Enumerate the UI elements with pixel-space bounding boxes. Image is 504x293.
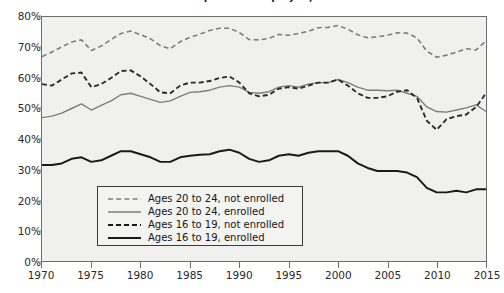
legend-label: Ages 16 to 19, enrolled (148, 231, 265, 244)
legend-item: Ages 16 to 19, enrolled (98, 231, 302, 244)
x-tick-mark (486, 262, 487, 268)
x-tick-label: 1985 (176, 269, 203, 281)
x-tick-label: 1995 (275, 269, 302, 281)
series-line (42, 70, 486, 129)
legend-line-swatch (108, 233, 141, 243)
x-tick-mark (388, 262, 389, 268)
x-tick-label: 1975 (77, 269, 104, 281)
legend-item: Ages 20 to 24, enrolled (98, 205, 302, 218)
x-tick-label: 2015 (474, 269, 501, 281)
x-tick-mark (91, 262, 92, 268)
x-tick-label: 1990 (226, 269, 253, 281)
series-line (42, 26, 486, 58)
y-axis: 0%10%20%30%40%50%60%70%80% (0, 16, 41, 262)
x-tick-mark (140, 262, 141, 268)
x-tick-mark (190, 262, 191, 268)
employment-rate-line-chart: Percent of Population Employed, 1970-201… (0, 0, 504, 293)
legend-label: Ages 20 to 24, enrolled (148, 205, 265, 218)
x-tick-mark (239, 262, 240, 268)
legend-item: Ages 20 to 24, not enrolled (98, 192, 302, 205)
legend-item: Ages 16 to 19, not enrolled (98, 218, 302, 231)
x-axis: 1970197519801985199019952000200520102015 (41, 262, 487, 292)
x-tick-label: 2010 (424, 269, 451, 281)
x-tick-mark (338, 262, 339, 268)
x-tick-label: 2000 (325, 269, 352, 281)
legend-line-swatch (108, 207, 141, 217)
chart-legend: Ages 20 to 24, not enrolledAges 20 to 24… (97, 186, 303, 246)
x-tick-label: 1980 (127, 269, 154, 281)
x-tick-label: 2005 (375, 269, 402, 281)
series-line (42, 80, 486, 118)
x-tick-mark (437, 262, 438, 268)
legend-line-swatch (108, 194, 141, 204)
legend-label: Ages 20 to 24, not enrolled (148, 192, 284, 205)
legend-label: Ages 16 to 19, not enrolled (148, 218, 284, 231)
x-tick-mark (289, 262, 290, 268)
x-tick-label: 1970 (28, 269, 55, 281)
x-tick-mark (41, 262, 42, 268)
chart-title: Percent of Population Employed, 1970-201… (0, 0, 504, 2)
legend-line-swatch (108, 220, 141, 230)
